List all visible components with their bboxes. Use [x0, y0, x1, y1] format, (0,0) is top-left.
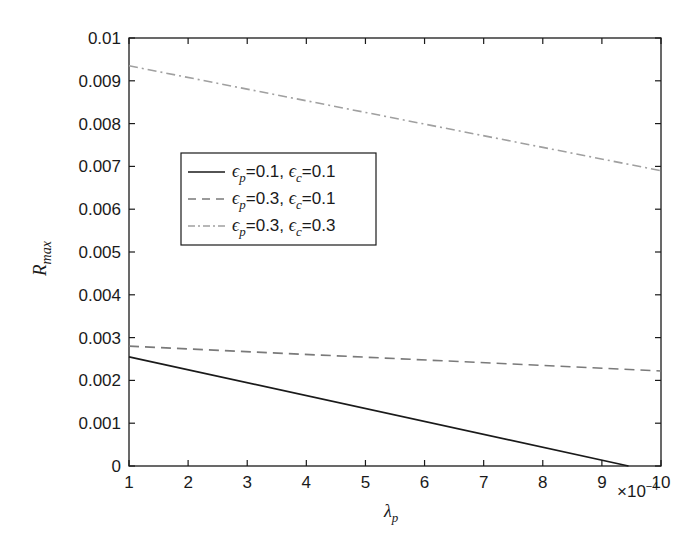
x-tick-label: 1 — [124, 473, 133, 492]
x-tick-label: 3 — [242, 473, 251, 492]
y-tick-label: 0.003 — [78, 329, 121, 348]
line-chart: 00.0010.0020.0030.0040.0050.0060.0070.00… — [0, 0, 694, 557]
x-tick-label: 5 — [361, 473, 370, 492]
y-tick-label: 0.001 — [78, 414, 121, 433]
plot-area — [129, 38, 661, 466]
y-tick-label: 0.002 — [78, 371, 121, 390]
y-tick-label: 0.006 — [78, 200, 121, 219]
y-tick-label: 0.005 — [78, 243, 121, 262]
x-tick-label: 9 — [597, 473, 606, 492]
y-tick-label: 0.008 — [78, 115, 121, 134]
y-tick-label: 0.01 — [88, 29, 121, 48]
x-tick-label: 6 — [420, 473, 429, 492]
x-tick-label: 7 — [479, 473, 488, 492]
y-tick-label: 0.009 — [78, 72, 121, 91]
x-tick-label: 2 — [183, 473, 192, 492]
x-axis-multiplier: ×10−4 — [617, 480, 658, 501]
x-axis-label: λp — [383, 501, 399, 525]
y-tick-label: 0 — [112, 457, 121, 476]
y-axis-label: Rmax — [29, 240, 54, 277]
x-tick-label: 8 — [538, 473, 547, 492]
x-tick-label: 4 — [302, 473, 311, 492]
y-tick-label: 0.007 — [78, 157, 121, 176]
y-tick-label: 0.004 — [78, 286, 121, 305]
legend: ϵp=0.1, ϵc=0.1ϵp=0.3, ϵc=0.1ϵp=0.3, ϵc=0… — [181, 153, 376, 245]
